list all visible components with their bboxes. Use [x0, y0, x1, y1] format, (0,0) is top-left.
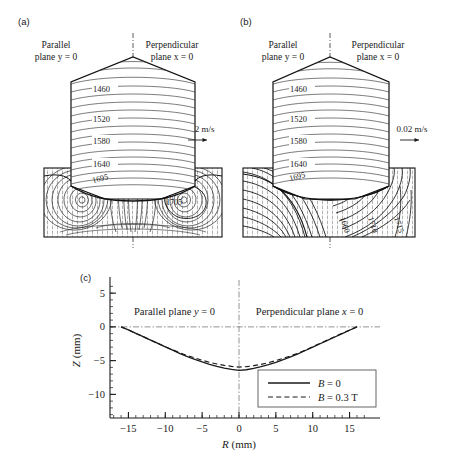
x-tick-label: −5 [197, 423, 208, 434]
y-tick-label: 0 [100, 321, 105, 332]
legend-label-0: B = 0 [318, 378, 341, 389]
x-tick-label: −10 [157, 423, 173, 434]
panel-b-velocity-arrow-icon [400, 138, 419, 142]
legend-box [258, 370, 376, 407]
x-tick-label: 0 [236, 423, 241, 434]
y-tick-label: 5 [100, 288, 105, 299]
panel-b-contour-label-0: 1460 [290, 84, 307, 94]
panel-b-contour-label-3: 1640 [290, 159, 307, 169]
y-tick-label: −10 [89, 389, 105, 400]
panel-c-right-region-label: Perpendicular plane x = 0 [256, 306, 363, 317]
panel-b-contour-label-1: 1520 [290, 114, 307, 124]
panel-c-chart: −15−10−505101550−5−10R (mm)Z (mm)Paralle… [0, 250, 457, 463]
x-tick-label: 15 [344, 423, 355, 434]
y-axis-label: Z (mm) [70, 334, 83, 368]
panel-c-left-region-label: Parallel plane y = 0 [134, 306, 215, 317]
panel-b-contour-label-2: 1580 [290, 136, 307, 146]
x-tick-label: 5 [273, 423, 278, 434]
legend-label-1: B = 0.3 T [318, 392, 358, 403]
x-tick-label: −15 [120, 423, 136, 434]
y-tick-label: −5 [94, 355, 105, 366]
x-tick-label: 10 [307, 423, 318, 434]
panel-b-figure: 1460 1520 1580 1640 1695 1660 1710 1715 [0, 0, 457, 250]
x-axis-label: R (mm) [221, 438, 256, 451]
